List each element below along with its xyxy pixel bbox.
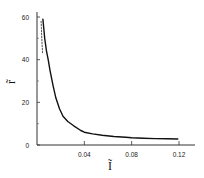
- x-tick-label: 0.04: [78, 151, 91, 158]
- series-dashed-line: [41, 21, 43, 53]
- y-tick-label: 20: [22, 99, 30, 106]
- plot-labels: 0.040.080.120204060: [22, 14, 186, 159]
- y-axis-label: r̃: [4, 79, 18, 84]
- plot-axes: [37, 12, 195, 145]
- x-axis-label: Ĩ: [108, 159, 112, 173]
- plot-series: [41, 19, 178, 139]
- y-tick-label: 0: [25, 142, 29, 149]
- x-tick-label: 0.12: [173, 151, 186, 158]
- chart: 0.040.080.120204060 Ĩ r̃: [0, 0, 204, 178]
- y-tick-label: 40: [22, 56, 30, 63]
- series-solid-line: [43, 19, 178, 139]
- x-tick-label: 0.08: [125, 151, 138, 158]
- y-tick-label: 60: [22, 14, 30, 21]
